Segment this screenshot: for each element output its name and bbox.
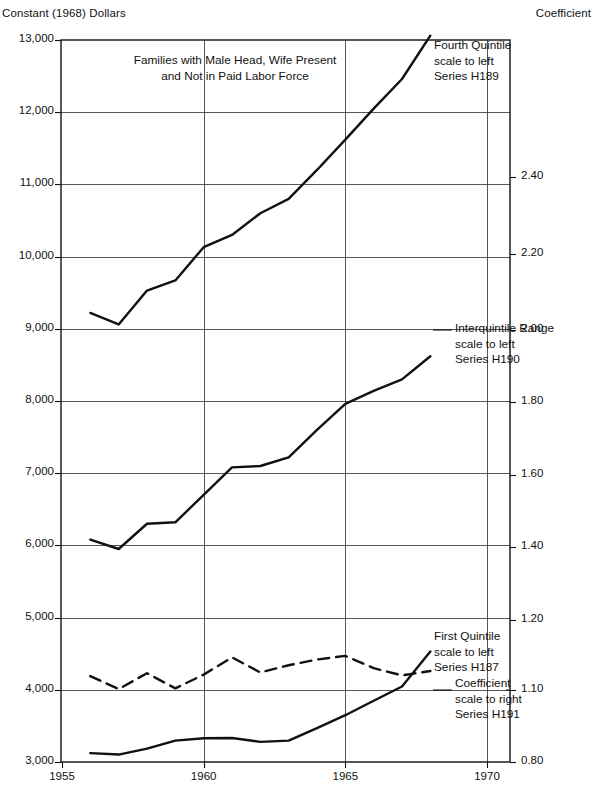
annotation-fourth-quintile-line1: Fourth Quintile — [434, 38, 511, 54]
annotation-first-quintile: First Quintile scale to left Series H187 — [434, 629, 500, 676]
annotation-fourth-quintile: Fourth Quintile scale to left Series H18… — [434, 38, 511, 85]
series-H187 — [90, 656, 430, 689]
y-axis-label-8000: 8,000 — [6, 393, 54, 405]
y-axis-label-5000: 5,000 — [6, 610, 54, 622]
annotation-coefficient: Coefficient scale to right Series H191 — [455, 676, 522, 723]
y-axis-label-10000: 10,000 — [6, 249, 54, 261]
annotation-interquintile-line3: Series H190 — [455, 352, 554, 368]
annotation-fourth-quintile-line2: scale to left — [434, 54, 511, 70]
annotation-interquintile-line2: scale to left — [455, 337, 554, 353]
y2-axis-label-2: 2.00 — [521, 322, 565, 334]
series-H191 — [90, 652, 430, 755]
annotation-first-quintile-line1: First Quintile — [434, 629, 500, 645]
y-axis-label-7000: 7,000 — [6, 465, 54, 477]
y-axis-label-3000: 3,000 — [6, 754, 54, 766]
x-axis-label-1960: 1960 — [174, 770, 234, 782]
y-axis-label-6000: 6,000 — [6, 537, 54, 549]
x-axis-label-1965: 1965 — [315, 770, 375, 782]
y2-axis-label-1-8: 1.80 — [521, 394, 565, 406]
data-series-layer — [90, 36, 430, 755]
y-axis-label-9000: 9,000 — [6, 321, 54, 333]
y2-axis-label-1-2: 1.20 — [521, 612, 565, 624]
plot-title-line1: Families with Male Head, Wife Present — [70, 52, 400, 68]
annotation-coefficient-line3: Series H191 — [455, 707, 522, 723]
y2-axis-label-2-2: 2.20 — [521, 246, 565, 258]
y-axis-label-12000: 12,000 — [6, 104, 54, 116]
plot-title-line2: and Not in Paid Labor Force — [70, 68, 400, 84]
y-axis-label-11000: 11,000 — [6, 176, 54, 188]
y2-axis-label-1-6: 1.60 — [521, 467, 565, 479]
y2-axis-label-1-1: 1.10 — [521, 682, 565, 694]
x-axis-label-1955: 1955 — [32, 770, 92, 782]
series-H190 — [90, 356, 430, 549]
y2-axis-label-1-4: 1.40 — [521, 539, 565, 551]
x-axis-label-1970: 1970 — [457, 770, 517, 782]
plot-title: Families with Male Head, Wife Present an… — [70, 52, 400, 84]
y2-axis-label-2-4: 2.40 — [521, 169, 565, 181]
annotation-fourth-quintile-line3: Series H189 — [434, 69, 511, 85]
y-axis-label-13000: 13,000 — [6, 32, 54, 44]
annotation-coefficient-line2: scale to right — [455, 692, 522, 708]
annotation-first-quintile-line2: scale to left — [434, 645, 500, 661]
y2-axis-label-0-8: 0.80 — [521, 754, 565, 766]
y-axis-label-4000: 4,000 — [6, 682, 54, 694]
annotation-coefficient-line1: Coefficient — [455, 676, 522, 692]
annotation-first-quintile-line3: Series H187 — [434, 660, 500, 676]
chart-figure: Constant (1968) Dollars Coefficient Fami… — [0, 0, 594, 787]
plot-canvas — [0, 0, 594, 787]
